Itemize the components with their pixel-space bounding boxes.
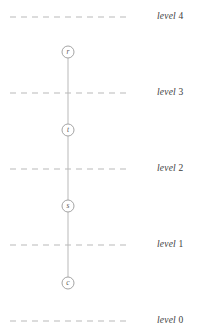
level-label-number: 2 [179, 163, 184, 173]
level-label-word: level [157, 163, 176, 173]
graph-node-label-r: r [61, 45, 75, 59]
level-label-number: 4 [179, 11, 184, 21]
level-label-2: level 2 [157, 163, 183, 173]
level-label-word: level [157, 11, 176, 21]
level-label-number: 0 [179, 315, 184, 325]
level-label-word: level [157, 315, 176, 325]
level-label-number: 3 [179, 87, 184, 97]
level-label-0: level 0 [157, 315, 183, 325]
level-label-word: level [157, 87, 176, 97]
level-graph-figure: level 4level 3level 2level 1level 0 rtsc [0, 0, 202, 333]
graph-node-label-s: s [61, 199, 75, 213]
graph-node-label-c: c [61, 276, 75, 290]
level-label-word: level [157, 239, 176, 249]
level-label-1: level 1 [157, 239, 183, 249]
level-label-4: level 4 [157, 11, 183, 21]
level-label-number: 1 [179, 239, 184, 249]
graph-node-label-t: t [61, 123, 75, 137]
level-label-3: level 3 [157, 87, 183, 97]
